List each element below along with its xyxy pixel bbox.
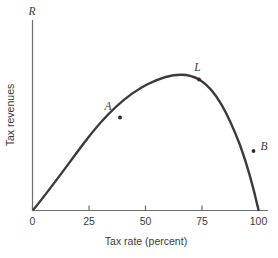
x-tick-label-100: 100 (250, 215, 268, 227)
x-tick-label-75: 75 (196, 215, 208, 227)
laffer-curve-path (34, 75, 259, 210)
chart-canvas: 0 25 50 75 100 R Tax revenues Tax rate (… (0, 0, 278, 258)
point-marker-a (118, 116, 122, 120)
x-axis-ticks (33, 206, 259, 211)
x-tick-label-0: 0 (30, 215, 36, 227)
x-tick-label-50: 50 (140, 215, 152, 227)
point-label-l: L (193, 61, 200, 73)
point-marker-l (197, 78, 201, 82)
x-axis-title: Tax rate (percent) (105, 235, 187, 247)
point-marker-b (252, 149, 256, 153)
point-label-b: B (260, 140, 267, 152)
point-label-a: A (103, 100, 112, 112)
x-tick-label-25: 25 (83, 215, 95, 227)
y-axis-title: Tax revenues (4, 84, 16, 146)
y-axis-symbol: R (27, 5, 35, 17)
laffer-curve-figure: 0 25 50 75 100 R Tax revenues Tax rate (… (0, 0, 278, 258)
